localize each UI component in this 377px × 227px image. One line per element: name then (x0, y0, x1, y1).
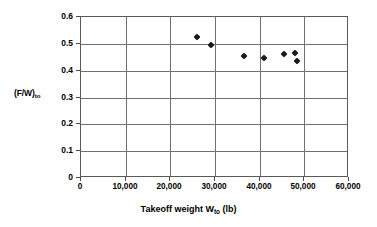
y-axis-title-subscript: to (35, 92, 41, 99)
x-axis-tick (125, 177, 126, 181)
x-axis-title-unit: (lb) (220, 204, 237, 214)
x-axis-title-text: Takeoff weight W (141, 204, 214, 214)
data-point (292, 50, 299, 57)
x-axis-tick (214, 177, 215, 181)
gridline-horizontal (81, 151, 347, 152)
data-point (281, 51, 288, 58)
y-axis-tick-label-wrap: 0.2 (45, 123, 73, 124)
gridline-horizontal (81, 124, 347, 125)
x-axis-tick (169, 177, 170, 181)
gridline-vertical (304, 17, 305, 176)
x-axis-tick (80, 177, 81, 181)
y-axis-tick (76, 97, 80, 98)
y-axis-tick-label-wrap: 0.3 (45, 97, 73, 98)
gridline-vertical (215, 17, 216, 176)
x-axis-tick (259, 177, 260, 181)
y-axis-title: (F/W)to (14, 89, 40, 98)
data-point (240, 53, 247, 60)
data-point (194, 34, 201, 41)
x-axis-tick (348, 177, 349, 181)
y-axis-tick (76, 150, 80, 151)
x-axis-tick-label: 30,000 (201, 183, 226, 191)
y-axis-tick-label: 0.1 (47, 146, 73, 155)
y-axis-tick-label: 0.2 (47, 119, 73, 128)
y-axis-tick-label: 0 (47, 173, 73, 182)
gridline-horizontal (81, 98, 347, 99)
y-axis-tick-label: 0.5 (47, 39, 73, 48)
x-axis-tick (303, 177, 304, 181)
y-axis-tick-label-wrap: 0.5 (45, 43, 73, 44)
y-axis-tick-label: 0.3 (47, 93, 73, 102)
data-point (207, 41, 214, 48)
y-axis-tick (76, 123, 80, 124)
y-axis-tick-label-wrap: 0.1 (45, 150, 73, 151)
x-axis-tick-label: 10,000 (112, 183, 137, 191)
x-axis-title: Takeoff weight Wto (lb) (0, 205, 377, 214)
scatter-chart: (F/W)to 00.10.20.30.40.50.6010,00020,000… (0, 0, 377, 227)
gridline-vertical (170, 17, 171, 176)
y-axis-title-text: (F/W) (14, 88, 35, 98)
x-axis-tick-label: 60,000 (335, 183, 360, 191)
y-axis-tick-label: 0.6 (47, 12, 73, 21)
y-axis-tick-label-wrap: 0 (45, 177, 73, 178)
data-point (293, 57, 300, 64)
y-axis-tick (76, 16, 80, 17)
data-point (261, 54, 268, 61)
y-axis-tick-label-wrap: 0.4 (45, 70, 73, 71)
x-axis-tick-label: 50,000 (290, 183, 315, 191)
x-axis-title-subscript: to (214, 208, 220, 215)
y-axis-tick (76, 43, 80, 44)
x-axis-tick-label: 0 (78, 183, 83, 191)
gridline-vertical (260, 17, 261, 176)
y-axis-tick-label: 0.4 (47, 66, 73, 75)
y-axis-tick (76, 70, 80, 71)
gridline-horizontal (81, 71, 347, 72)
x-axis-tick-label: 40,000 (246, 183, 271, 191)
plot-area (80, 16, 348, 177)
x-axis-tick-label: 20,000 (156, 183, 181, 191)
gridline-vertical (126, 17, 127, 176)
y-axis-tick-label-wrap: 0.6 (45, 16, 73, 17)
